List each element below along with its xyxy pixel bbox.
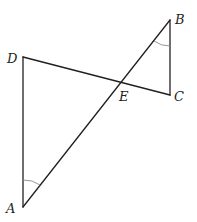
geometry-diagram: D B E C A [0, 0, 197, 222]
label-point-A: A [5, 201, 15, 216]
angle-mark-B [154, 41, 170, 46]
label-point-D: D [6, 51, 18, 66]
segment-DC [23, 57, 170, 95]
label-point-C: C [174, 89, 184, 104]
label-point-B: B [174, 12, 185, 27]
segment-AB [23, 20, 170, 207]
angle-mark-A [23, 180, 40, 185]
label-point-E: E [118, 89, 129, 104]
